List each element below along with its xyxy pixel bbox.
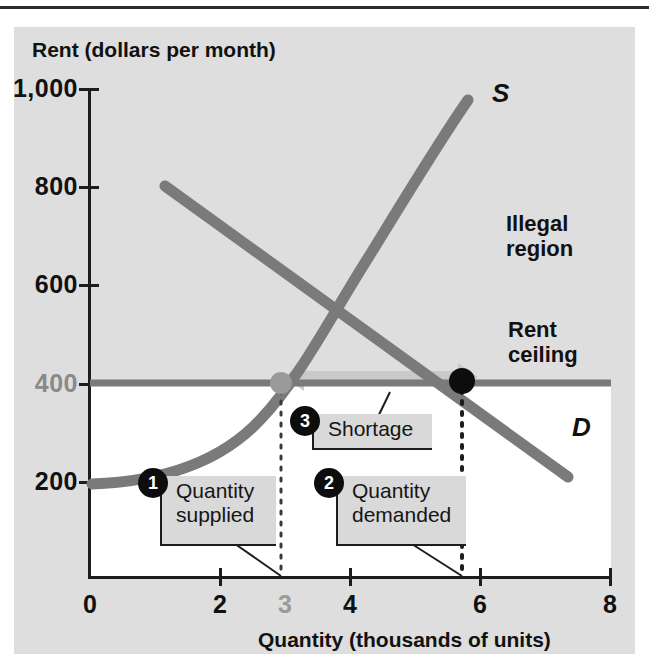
rent-ceiling-figure: 1,000 800 600 400 200 0 2 3 4 6 8 Rent (…: [0, 0, 649, 668]
callout-1-text: Quantity supplied: [160, 476, 276, 546]
callout-1-badge: 1: [138, 468, 168, 498]
rent-ceiling-label: Rent ceiling: [508, 318, 578, 367]
supply-curve-label: S: [492, 78, 509, 109]
quantity-supplied-point: [270, 372, 292, 394]
callout-2-badge: 2: [314, 468, 344, 498]
callout-3-text: Shortage: [312, 414, 432, 450]
illegal-region-label: Illegal region: [506, 212, 573, 261]
callout-2-text: Quantity demanded: [336, 476, 466, 546]
callout-3-badge: 3: [290, 406, 320, 436]
quantity-demanded-point: [449, 368, 475, 394]
demand-curve-label: D: [572, 412, 591, 443]
